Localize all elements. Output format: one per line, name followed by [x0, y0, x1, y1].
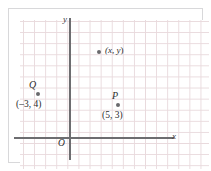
origin-label: O — [58, 138, 65, 148]
point-marker-xy — [97, 50, 101, 54]
point-label-q: Q — [29, 79, 36, 90]
point-label-p: P — [112, 90, 118, 101]
point-marker-q — [36, 92, 40, 96]
y-axis-line — [69, 18, 71, 160]
point-coordinates-p: (5, 3) — [102, 110, 123, 120]
coordinate-plane-figure: x y O (x, y) Q (–3, 4) P (5, 3) — [0, 0, 211, 171]
point-label-xy: (x, y) — [105, 45, 124, 55]
x-axis-label: x — [172, 131, 176, 141]
point-marker-p — [116, 103, 120, 107]
point-coordinates-q: (–3, 4) — [16, 99, 41, 109]
y-axis-label: y — [63, 14, 67, 24]
x-axis-line — [14, 137, 174, 139]
paren-close: ) — [121, 45, 124, 55]
